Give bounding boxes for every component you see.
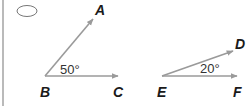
label-point-d: D xyxy=(235,36,245,52)
label-point-f: F xyxy=(233,84,242,100)
angle-abc: A B C 50° xyxy=(40,2,124,100)
label-point-a: A xyxy=(94,2,105,18)
answer-oval-icon[interactable] xyxy=(17,6,37,17)
angle-measure-def: 20° xyxy=(200,61,220,76)
label-point-b: B xyxy=(40,84,50,100)
label-point-c: C xyxy=(113,84,124,100)
angle-def: D E F 20° xyxy=(157,36,245,100)
label-point-e: E xyxy=(157,84,167,100)
ray-ed xyxy=(162,51,233,76)
angle-diagram: A B C 50° D E F 20° xyxy=(0,0,249,106)
angle-measure-abc: 50° xyxy=(60,62,80,77)
